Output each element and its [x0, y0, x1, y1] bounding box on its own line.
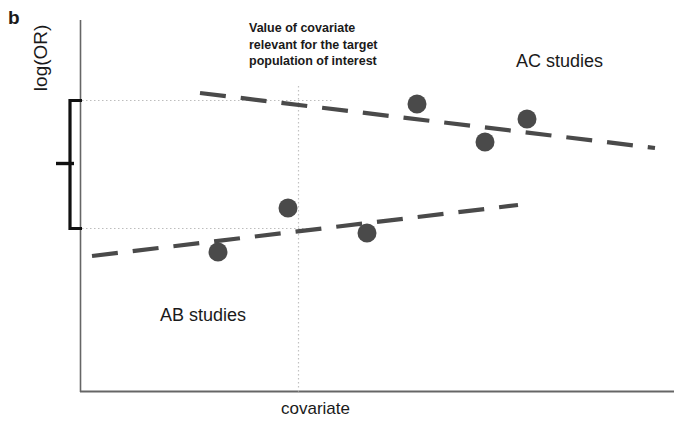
- target-population-annotation: Value of covariate relevant for the targ…: [249, 20, 378, 70]
- ab-trend-line: [92, 205, 518, 256]
- ab-data-point: [358, 224, 377, 243]
- ac-studies-label: AC studies: [516, 50, 603, 73]
- ac-trend-line: [200, 93, 655, 148]
- ac-data-point: [476, 133, 495, 152]
- ac-data-point: [408, 95, 427, 114]
- x-axis-label: covariate: [281, 398, 350, 419]
- ab-studies-label: AB studies: [160, 304, 246, 327]
- ac-data-point: [518, 110, 537, 129]
- panel-letter: b: [8, 6, 20, 30]
- ab-data-point: [279, 199, 298, 218]
- ab-data-point: [209, 243, 228, 262]
- y-axis-label: log(OR): [29, 3, 53, 113]
- figure-panel-b: b log(OR) covariate Value of covariate r…: [0, 0, 674, 425]
